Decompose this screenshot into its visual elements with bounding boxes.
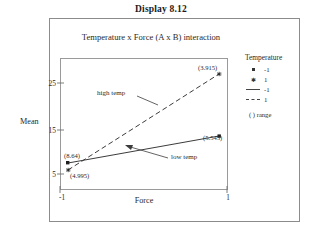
legend: Temperature -1 ✱ 1 -1 1 ( ) range: [245, 53, 299, 118]
star-marker-icon: ✱: [245, 78, 261, 82]
plot-graphics: [0, 0, 322, 236]
legend-item-solid-neg1[interactable]: -1: [245, 85, 299, 94]
legend-title: Temperature: [245, 53, 299, 62]
legend-range-note: ( ) range: [249, 111, 299, 118]
point-label-8-64: (8.64): [64, 152, 80, 159]
solid-line-icon: [245, 89, 261, 90]
legend-label-dashed-1: 1: [264, 96, 267, 103]
square-marker-icon: [245, 68, 261, 71]
legend-label-star-1: 1: [264, 76, 267, 83]
data-point-low-temp-left: [66, 161, 69, 164]
legend-item-dashed-1[interactable]: 1: [245, 95, 299, 104]
legend-label-solid-neg1: -1: [264, 86, 270, 93]
high-temp-leader-line: [137, 96, 158, 105]
point-label-3-915: (3.915): [198, 64, 217, 71]
low-temp-leader-line: [127, 146, 168, 158]
legend-item-star-1[interactable]: ✱ 1: [245, 75, 299, 84]
dashed-line-icon: [245, 99, 261, 100]
legend-label-square-neg1: -1: [264, 66, 270, 73]
figure-container: Display 8.12 Temperature x Force (A x B)…: [0, 0, 322, 236]
high-temp-annotation: high temp: [97, 89, 125, 97]
legend-item-square-neg1[interactable]: -1: [245, 65, 299, 74]
low-temp-leader-arrowhead: [125, 145, 133, 150]
point-label-5-545: (5.545): [203, 134, 222, 141]
data-point-high-temp-right: [217, 72, 222, 76]
low-temp-annotation: low temp: [171, 153, 197, 161]
point-label-4-995: (4.995): [70, 172, 89, 179]
